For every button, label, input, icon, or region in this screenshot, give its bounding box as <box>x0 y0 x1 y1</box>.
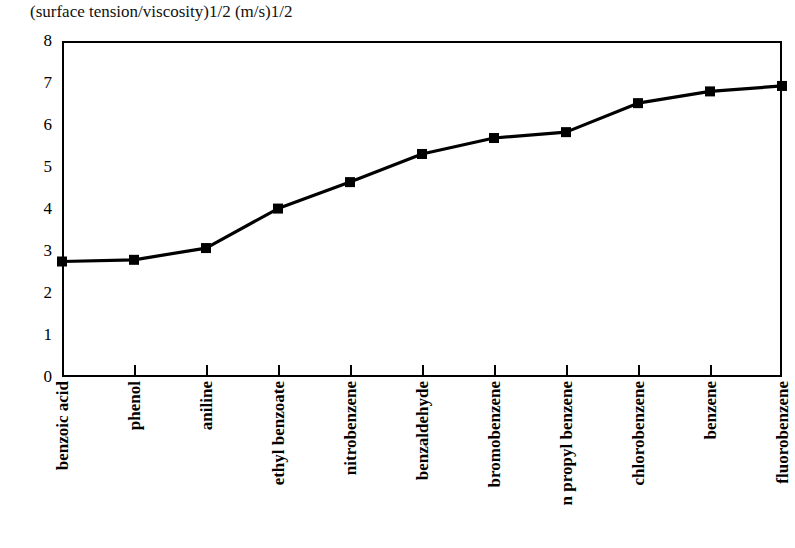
y-axis-tick-label: 4 <box>28 200 52 217</box>
y-axis-tick-label: 0 <box>28 368 52 385</box>
x-axis-tick-label-text: benzoic acid <box>54 381 71 470</box>
x-axis-tick-label: nitrobenzene <box>340 381 360 546</box>
x-axis-tick-label-text: phenol <box>126 381 143 430</box>
x-axis-tick-label: benzaldehyde <box>412 381 432 546</box>
y-axis-tick-label: 5 <box>28 158 52 175</box>
x-axis-tick-mark <box>566 365 568 377</box>
plot-area <box>62 41 782 377</box>
x-axis-tick-label-text: n propyl benzene <box>558 381 575 505</box>
y-axis-tick-label: 1 <box>28 326 52 343</box>
x-axis-tick-label-text: benzaldehyde <box>414 381 431 480</box>
x-axis-tick-label: chlorobenzene <box>628 381 648 546</box>
x-axis-tick-label-text: ethyl benzoate <box>270 381 287 485</box>
x-axis-tick-label: fluorobenzene <box>772 381 792 546</box>
x-axis-tick-mark <box>278 365 280 377</box>
y-axis-tick-label: 8 <box>28 32 52 49</box>
x-axis-tick-mark <box>638 365 640 377</box>
x-axis-tick-label: benzoic acid <box>52 381 72 546</box>
x-axis-tick-mark <box>350 365 352 377</box>
x-axis-tick-label: benzene <box>700 381 720 546</box>
x-axis-tick-mark <box>206 365 208 377</box>
x-axis-tick-mark <box>494 365 496 377</box>
chart-title: (surface tension/viscosity)1/2 (m/s)1/2 <box>30 1 293 23</box>
y-axis-tick-label: 7 <box>28 74 52 91</box>
x-axis-tick-label-text: nitrobenzene <box>342 381 359 475</box>
x-axis-tick-label-text: chlorobenzene <box>630 381 647 486</box>
y-axis-tick-label: 3 <box>28 242 52 259</box>
x-axis-tick-mark <box>134 365 136 377</box>
y-axis-tick-label: 6 <box>28 116 52 133</box>
x-axis-tick-label: n propyl benzene <box>556 381 576 546</box>
x-axis-tick-label-text: benzene <box>702 381 719 440</box>
x-axis-tick-label: bromobenzene <box>484 381 504 546</box>
x-axis-tick-label: ethyl benzoate <box>268 381 288 546</box>
x-axis-tick-label: aniline <box>196 381 216 546</box>
chart-figure: (surface tension/viscosity)1/2 (m/s)1/2 … <box>0 0 795 548</box>
x-axis-tick-label-text: fluorobenzene <box>774 381 791 484</box>
x-axis-tick-mark <box>422 365 424 377</box>
y-axis-tick-labels: 876543210 <box>0 41 52 377</box>
x-axis-tick-label: phenol <box>124 381 144 546</box>
x-axis-tick-label-text: aniline <box>198 381 215 430</box>
y-axis-tick-label: 2 <box>28 284 52 301</box>
x-axis-tick-labels: benzoic acidphenolanilineethyl benzoaten… <box>62 381 782 548</box>
x-axis-tick-label-text: bromobenzene <box>486 381 503 487</box>
x-axis-tick-mark <box>710 365 712 377</box>
